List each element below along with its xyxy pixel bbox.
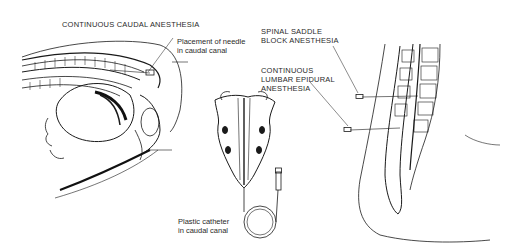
catheter-label-line2: in caudal canal [178, 226, 228, 235]
catheter-label-line1: Plastic catheter [178, 217, 229, 226]
lumbar-epidural-label-line3: ANESTHESIA [261, 84, 311, 93]
spinal-saddle-label-line1: SPINAL SADDLE [261, 27, 322, 36]
needle-placement-label-line1: Placement of needle [177, 37, 245, 46]
lumbar-spine-illustration [310, 44, 500, 242]
spinal-saddle-label-line2: BLOCK ANESTHESIA [261, 36, 339, 45]
sagittal-section-illustration [22, 38, 188, 198]
lumbar-epidural-label-line1: CONTINUOUS [261, 66, 313, 75]
lumbar-epidural-label-line2: LUMBAR EPIDURAL [261, 75, 335, 84]
diagram-title: CONTINUOUS CAUDAL ANESTHESIA [62, 20, 199, 29]
illustration-canvas [0, 0, 512, 251]
needle-placement-label-line2: in caudal canal [177, 46, 227, 55]
